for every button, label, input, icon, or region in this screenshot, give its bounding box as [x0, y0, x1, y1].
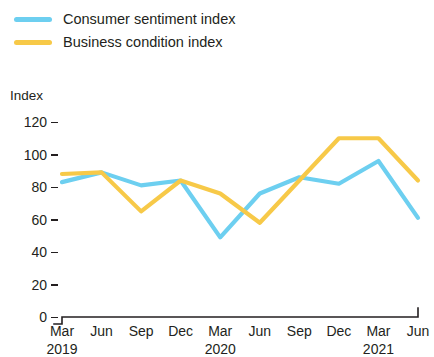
chart-plot-area — [0, 0, 434, 357]
y-tick-mark — [51, 122, 58, 124]
y-tick-label: 120 — [24, 114, 47, 130]
x-axis-year-label-2: 2021 — [363, 341, 394, 357]
y-tick-100: 100 — [24, 147, 58, 163]
x-axis-tick-labels: MarJunSepDecMarJunSepDecMarJun2019202020… — [0, 323, 434, 357]
y-tick-label: 20 — [31, 277, 47, 293]
line-chart: Index 120100806040200 MarJunSepDecMarJun… — [0, 0, 434, 357]
x-tick-label-9: Jun — [407, 323, 430, 339]
x-tick-label-5: Jun — [248, 323, 271, 339]
x-tick-label-7: Dec — [326, 323, 351, 339]
x-axis-year-label-0: 2019 — [46, 341, 77, 357]
x-tick-label-4: Mar — [208, 323, 232, 339]
y-tick-label: 40 — [31, 244, 47, 260]
y-tick-mark — [51, 284, 58, 286]
y-tick-20: 20 — [31, 277, 58, 293]
y-tick-mark — [51, 252, 58, 254]
series-line-consumer-sentiment — [62, 161, 418, 237]
x-tick-label-3: Dec — [168, 323, 193, 339]
x-axis-year-label-1: 2020 — [205, 341, 236, 357]
y-tick-40: 40 — [31, 244, 58, 260]
x-tick-label-0: Mar — [50, 323, 74, 339]
y-tick-label: 60 — [31, 212, 47, 228]
x-axis-line — [54, 308, 418, 324]
y-tick-mark — [51, 187, 58, 189]
y-tick-mark — [51, 317, 58, 319]
y-tick-label: 100 — [24, 147, 47, 163]
y-tick-label: 80 — [31, 179, 47, 195]
x-tick-label-1: Jun — [90, 323, 113, 339]
y-tick-120: 120 — [24, 114, 58, 130]
x-tick-label-6: Sep — [287, 323, 312, 339]
x-tick-label-8: Mar — [366, 323, 390, 339]
x-tick-label-2: Sep — [129, 323, 154, 339]
axis-lines — [54, 308, 418, 324]
series-line-business-condition — [62, 138, 418, 223]
y-axis-tick-labels: 120100806040200 — [0, 0, 58, 357]
y-tick-80: 80 — [31, 179, 58, 195]
data-series-group — [62, 138, 418, 237]
y-tick-mark — [51, 154, 58, 156]
y-tick-mark — [51, 219, 58, 221]
y-tick-60: 60 — [31, 212, 58, 228]
